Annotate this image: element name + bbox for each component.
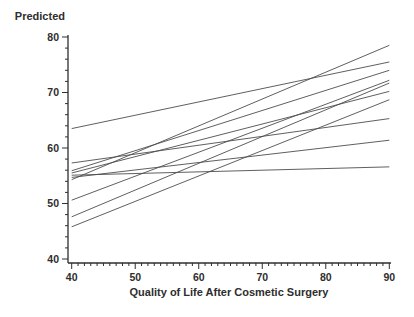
x-tick-label-60: 60 [193,271,205,283]
regression-line-5 [72,119,390,163]
regression-line-10 [72,167,390,175]
regression-lines [72,45,390,226]
chart-figure: Predicted 4050607080 405060708090 Qualit… [0,0,414,317]
y-axis: 4050607080 [47,31,68,265]
spaghetti-plot: Predicted 4050607080 405060708090 Qualit… [0,0,414,317]
x-tick-label-40: 40 [66,271,78,283]
y-tick-label-70: 70 [47,86,59,98]
y-tick-label-60: 60 [47,142,59,154]
y-tick-label-50: 50 [47,197,59,209]
regression-line-2 [72,45,390,179]
x-tick-label-80: 80 [320,271,332,283]
x-tick-label-70: 70 [256,271,268,283]
x-tick-label-50: 50 [129,271,141,283]
regression-line-6 [72,80,390,200]
y-tick-label-40: 40 [47,253,59,265]
y-axis-title: Predicted [15,10,65,22]
x-axis-title: Quality of Life After Cosmetic Surgery [130,286,330,298]
regression-line-8 [72,140,390,177]
regression-line-7 [72,83,390,217]
regression-line-4 [72,91,390,173]
x-tick-label-90: 90 [383,271,395,283]
regression-line-3 [72,70,390,170]
y-tick-label-80: 80 [47,31,59,43]
x-axis: 405060708090 [66,263,395,283]
